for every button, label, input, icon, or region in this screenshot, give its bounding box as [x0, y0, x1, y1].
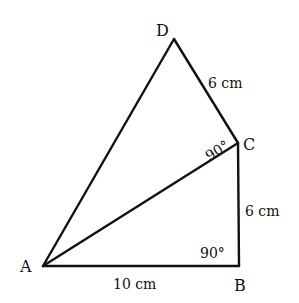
- angle-label-c: 90°: [202, 137, 232, 164]
- edge-da: [43, 39, 174, 266]
- vertex-label-c: C: [243, 135, 255, 154]
- quadrilateral-diagram: D C A B 10 cm 6 cm 6 cm 90° 90°: [0, 0, 299, 303]
- vertex-label-d: D: [156, 21, 169, 40]
- edge-bc: [238, 143, 239, 266]
- length-label-cd: 6 cm: [208, 75, 242, 91]
- length-label-ab: 10 cm: [113, 276, 156, 292]
- vertex-label-a: A: [19, 257, 32, 276]
- angle-label-b: 90°: [200, 245, 225, 261]
- length-label-bc: 6 cm: [245, 203, 279, 219]
- vertex-label-b: B: [234, 276, 246, 295]
- edge-cd: [174, 39, 238, 143]
